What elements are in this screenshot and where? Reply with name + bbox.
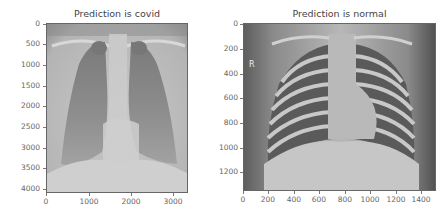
x-tick: 1400 — [406, 195, 436, 204]
y-tick: 500 — [0, 39, 40, 48]
y-tick: 1500 — [0, 81, 40, 90]
x-tick: 1000 — [74, 197, 104, 206]
y-tick: 2000 — [0, 101, 40, 110]
x-tick: 2000 — [116, 197, 146, 206]
y-tick: 200 — [198, 44, 238, 53]
covid-xray-image — [46, 23, 188, 193]
y-tick: 0 — [0, 19, 40, 28]
y-tick: 400 — [198, 69, 238, 78]
y-tick: 1000 — [0, 60, 40, 69]
y-tick: 800 — [198, 118, 238, 127]
right-title: Prediction is normal — [243, 8, 436, 19]
y-tick: 1000 — [198, 143, 238, 152]
xray-covid-graphic — [47, 24, 188, 193]
y-tick: 600 — [198, 93, 238, 102]
xray-normal-graphic — [244, 24, 436, 191]
y-tick: 3500 — [0, 163, 40, 172]
x-tick: 3000 — [158, 197, 188, 206]
r-marker-label: R — [249, 60, 255, 69]
y-tick: 2500 — [0, 122, 40, 131]
y-tick: 4000 — [0, 184, 40, 193]
y-tick: 1200 — [198, 167, 238, 176]
x-tick: 0 — [31, 197, 61, 206]
y-tick: 3000 — [0, 143, 40, 152]
y-tick: 0 — [198, 19, 238, 28]
normal-xray-image: R — [243, 23, 436, 191]
left-title: Prediction is covid — [46, 8, 188, 19]
